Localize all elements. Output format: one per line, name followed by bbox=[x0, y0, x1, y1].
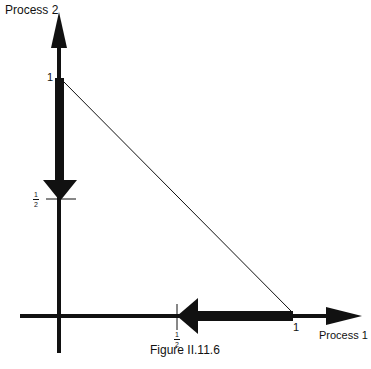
y-axis-arrowhead-icon bbox=[51, 12, 67, 48]
x-axis-arrowhead-icon bbox=[326, 307, 362, 325]
x-half-fraction-bar bbox=[174, 339, 180, 340]
diagonal-line bbox=[62, 80, 293, 313]
left-arrowhead-icon bbox=[177, 298, 198, 334]
y-tick-one: 1 bbox=[47, 72, 53, 83]
thick-arrow-left bbox=[177, 298, 293, 334]
diagram-canvas bbox=[0, 0, 371, 369]
thick-arrow-down bbox=[43, 78, 77, 201]
down-arrowhead-icon bbox=[43, 180, 77, 201]
y-tick-half: 1 2 bbox=[33, 191, 39, 208]
x-half-numerator: 1 bbox=[175, 331, 179, 338]
y-half-fraction-bar bbox=[33, 199, 39, 200]
figure-caption: Figure II.11.6 bbox=[150, 343, 220, 357]
y-half-numerator: 1 bbox=[34, 191, 38, 198]
x-axis-label: Process 1 bbox=[319, 330, 368, 341]
y-half-denominator: 2 bbox=[34, 201, 38, 208]
y-axis-label: Process 2 bbox=[5, 4, 58, 16]
x-tick-one: 1 bbox=[293, 322, 299, 333]
